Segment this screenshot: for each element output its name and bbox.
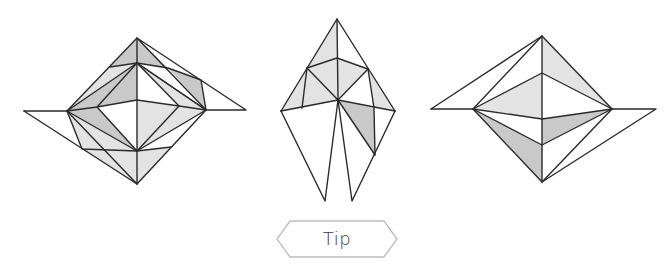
origami-figure-middle <box>281 19 395 201</box>
origami-figure-left <box>24 38 246 184</box>
origami-figure-right <box>431 36 656 182</box>
tip-button-label: Tip <box>276 220 398 258</box>
tip-button[interactable]: Tip <box>276 220 398 258</box>
